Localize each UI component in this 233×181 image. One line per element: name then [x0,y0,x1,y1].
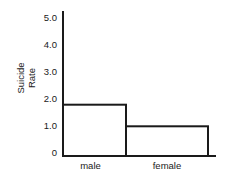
y-tick-label: 5.0 [44,12,57,23]
y-axis-label: Suicide Rate [15,62,37,93]
y-tick-label: 4.0 [44,39,57,50]
bar-chart: Suicide Rate 01.02.03.04.05.0 malefemale [0,0,233,181]
bars [63,105,208,156]
y-tick-label: 2.0 [44,93,57,104]
y-tick-label: 3.0 [44,66,57,77]
y-tick-label: 0 [52,147,57,158]
bar-female [126,126,208,156]
y-axis-ticks: 01.02.03.04.05.0 [44,12,57,158]
x-axis-categories: malefemale [80,160,181,171]
y-axis-label-line-1: Suicide [15,62,26,93]
category-label-male: male [80,160,101,171]
y-axis-label-line-2: Rate [26,68,37,88]
category-label-female: female [153,160,182,171]
bar-male [63,105,126,156]
y-tick-label: 1.0 [44,120,57,131]
